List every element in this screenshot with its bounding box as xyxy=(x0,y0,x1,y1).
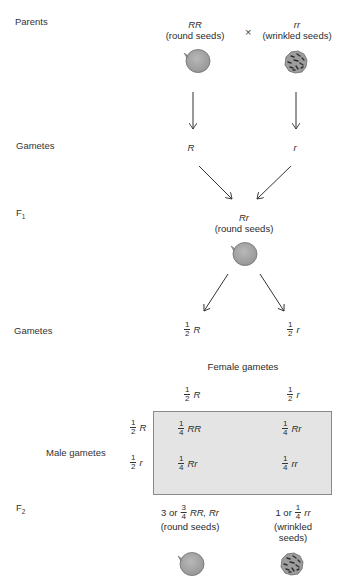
gamete-right: r xyxy=(293,142,296,153)
round-seed-icon xyxy=(184,50,210,73)
parent-left-label: RR (round seeds) xyxy=(166,19,225,41)
round-seed-icon xyxy=(178,553,204,576)
male-gametes-label: Male gametes xyxy=(46,447,106,458)
gamete-fraction-left: 12 R xyxy=(184,321,200,338)
f2-right-label: 1 or 14 rr (wrinkled seeds) xyxy=(265,504,321,543)
male-gamete-R: 12 R xyxy=(130,419,146,436)
row-label-f1: F1 xyxy=(16,207,25,220)
cross-symbol: × xyxy=(245,26,251,38)
parent-right-label: rr (wrinkled seeds) xyxy=(262,19,331,41)
phenotype: (wrinkled seeds) xyxy=(262,30,331,41)
gamete-fraction-right: 12 r xyxy=(287,321,300,338)
diagram-graphics: × xyxy=(0,0,349,584)
phenotype: (round seeds) xyxy=(166,30,225,41)
punnett-cell-Rr: 14 Rr xyxy=(282,420,301,437)
f1-label: Rr (round seeds) xyxy=(215,212,274,234)
female-gametes-label: Female gametes xyxy=(208,361,279,372)
round-seed-icon xyxy=(231,243,257,266)
row-label-parents: Parents xyxy=(15,16,48,27)
row-label-f2: F2 xyxy=(16,502,25,515)
row-label-gametes-2: Gametes xyxy=(14,325,53,336)
arrow-diverge-icon xyxy=(260,274,284,311)
wrinkled-seed-icon xyxy=(285,51,307,73)
female-gamete-r: 12 r xyxy=(287,386,300,403)
arrow-diverge-icon xyxy=(204,274,228,311)
male-gamete-r: 12 r xyxy=(130,454,143,471)
phenotype: (wrinkled seeds) xyxy=(265,521,321,543)
genotype: Rr xyxy=(215,212,274,223)
phenotype: (round seeds) xyxy=(215,223,274,234)
wrinkled-seed-icon xyxy=(281,553,303,575)
genotype: RR xyxy=(166,19,225,30)
punnett-cell-RR: 14 RR xyxy=(178,420,201,437)
gamete-left: R xyxy=(188,142,195,153)
row-label-gametes: Gametes xyxy=(16,140,55,151)
arrow-converge-icon xyxy=(199,166,232,199)
genotype: rr xyxy=(262,19,331,30)
punnett-cell-rr: 14 rr xyxy=(282,455,298,472)
punnett-square: 14 RR 14 Rr 14 Rr 14 rr xyxy=(153,411,332,495)
arrow-converge-icon xyxy=(257,166,291,199)
f2-left-label: 3 or 34 RR, Rr (round seeds) xyxy=(161,504,220,532)
punnett-cell-Rr: 14 Rr xyxy=(178,455,197,472)
female-gamete-R: 12 R xyxy=(184,386,200,403)
phenotype: (round seeds) xyxy=(161,521,220,532)
